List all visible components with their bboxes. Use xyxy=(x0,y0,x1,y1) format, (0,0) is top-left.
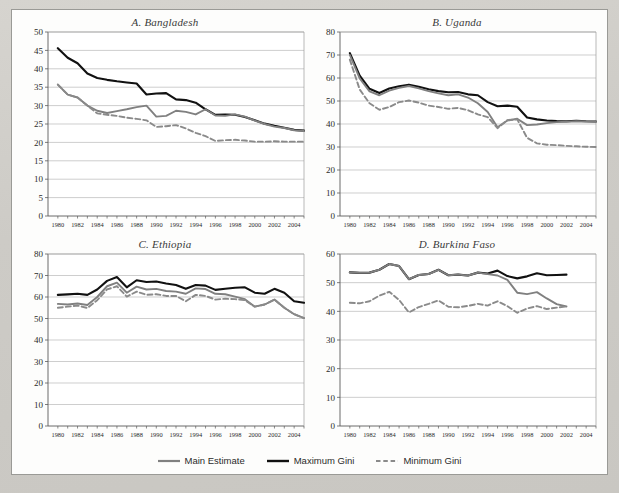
svg-text:0: 0 xyxy=(39,421,44,431)
svg-text:80: 80 xyxy=(34,249,44,259)
legend-label-minimum-gini: Minimum Gini xyxy=(403,455,461,466)
svg-text:20: 20 xyxy=(326,364,336,374)
panel-d-plot: 0102030405060198019821984198619881990199… xyxy=(312,238,602,448)
svg-text:2002: 2002 xyxy=(268,221,281,228)
svg-text:1988: 1988 xyxy=(130,221,143,228)
svg-text:1988: 1988 xyxy=(130,431,143,438)
svg-text:1984: 1984 xyxy=(383,431,397,438)
svg-text:50: 50 xyxy=(34,27,44,37)
svg-text:20: 20 xyxy=(34,378,44,388)
svg-text:20: 20 xyxy=(34,138,44,148)
svg-text:2004: 2004 xyxy=(288,431,302,438)
svg-text:1982: 1982 xyxy=(363,431,376,438)
svg-text:1992: 1992 xyxy=(462,221,475,228)
svg-text:10: 10 xyxy=(326,393,336,403)
svg-text:1992: 1992 xyxy=(170,221,183,228)
svg-text:2004: 2004 xyxy=(288,221,302,228)
svg-text:0: 0 xyxy=(39,211,44,221)
svg-text:1990: 1990 xyxy=(150,221,163,228)
svg-text:2004: 2004 xyxy=(580,221,594,228)
svg-text:35: 35 xyxy=(34,82,44,92)
svg-text:1990: 1990 xyxy=(442,431,455,438)
chart-legend: Main Estimate Maximum Gini Minimum Gini xyxy=(12,455,607,466)
panel-a-plot: 0510152025303540455019801982198419861988… xyxy=(20,16,310,238)
svg-text:1986: 1986 xyxy=(111,221,124,228)
svg-text:1996: 1996 xyxy=(501,221,514,228)
panel-a-bangladesh: A. Bangladesh 05101520253035404550198019… xyxy=(20,16,310,238)
svg-text:50: 50 xyxy=(34,314,44,324)
panel-c-ethiopia: C. Ethiopia 0102030405060708019801982198… xyxy=(20,238,310,448)
svg-text:80: 80 xyxy=(326,27,336,37)
svg-text:60: 60 xyxy=(326,249,336,259)
svg-text:1994: 1994 xyxy=(481,221,495,228)
svg-text:1986: 1986 xyxy=(403,431,416,438)
svg-text:2004: 2004 xyxy=(580,431,594,438)
svg-text:40: 40 xyxy=(326,307,336,317)
svg-text:25: 25 xyxy=(34,119,44,129)
svg-text:50: 50 xyxy=(326,96,336,106)
svg-text:1996: 1996 xyxy=(501,431,514,438)
svg-text:1996: 1996 xyxy=(209,431,222,438)
svg-text:40: 40 xyxy=(326,119,336,129)
svg-text:1994: 1994 xyxy=(189,431,203,438)
svg-text:2002: 2002 xyxy=(560,431,573,438)
svg-text:1982: 1982 xyxy=(363,221,376,228)
svg-text:0: 0 xyxy=(331,421,336,431)
svg-text:1994: 1994 xyxy=(481,431,495,438)
svg-text:1980: 1980 xyxy=(51,431,64,438)
svg-text:10: 10 xyxy=(326,188,336,198)
svg-text:1990: 1990 xyxy=(150,431,163,438)
legend-item-minimum-gini: Minimum Gini xyxy=(376,455,461,466)
svg-text:20: 20 xyxy=(326,165,336,175)
svg-text:1998: 1998 xyxy=(521,221,534,228)
figure-frame: A. Bangladesh 05101520253035404550198019… xyxy=(11,9,608,475)
panel-b-plot: 0102030405060708019801982198419861988199… xyxy=(312,16,602,238)
svg-text:1982: 1982 xyxy=(71,221,84,228)
svg-text:1986: 1986 xyxy=(111,431,124,438)
legend-label-main-estimate: Main Estimate xyxy=(185,455,245,466)
svg-text:1996: 1996 xyxy=(209,221,222,228)
svg-text:70: 70 xyxy=(34,271,44,281)
svg-text:1992: 1992 xyxy=(462,431,475,438)
svg-text:45: 45 xyxy=(34,46,44,56)
svg-text:1980: 1980 xyxy=(343,221,356,228)
legend-label-maximum-gini: Maximum Gini xyxy=(294,455,355,466)
svg-text:60: 60 xyxy=(326,73,336,83)
svg-text:15: 15 xyxy=(34,156,44,166)
svg-text:2002: 2002 xyxy=(268,431,281,438)
legend-item-main-estimate: Main Estimate xyxy=(158,455,245,466)
svg-text:2000: 2000 xyxy=(540,431,553,438)
svg-text:1986: 1986 xyxy=(403,221,416,228)
svg-text:30: 30 xyxy=(34,101,44,111)
svg-text:1998: 1998 xyxy=(229,431,242,438)
legend-item-maximum-gini: Maximum Gini xyxy=(267,455,355,466)
svg-text:70: 70 xyxy=(326,50,336,60)
svg-text:40: 40 xyxy=(34,335,44,345)
svg-text:10: 10 xyxy=(34,174,44,184)
svg-text:1988: 1988 xyxy=(422,221,435,228)
svg-text:1984: 1984 xyxy=(383,221,397,228)
svg-text:60: 60 xyxy=(34,292,44,302)
panel-c-plot: 0102030405060708019801982198419861988199… xyxy=(20,238,310,448)
svg-text:1980: 1980 xyxy=(51,221,64,228)
svg-text:1992: 1992 xyxy=(170,431,183,438)
svg-text:5: 5 xyxy=(39,193,44,203)
svg-text:0: 0 xyxy=(331,211,336,221)
legend-line-main-estimate xyxy=(158,456,180,466)
svg-text:1984: 1984 xyxy=(91,221,105,228)
svg-text:10: 10 xyxy=(34,400,44,410)
svg-text:2000: 2000 xyxy=(540,221,553,228)
svg-text:1988: 1988 xyxy=(422,431,435,438)
svg-text:50: 50 xyxy=(326,278,336,288)
svg-text:1984: 1984 xyxy=(91,431,105,438)
panel-b-uganda: B. Uganda 010203040506070801980198219841… xyxy=(312,16,602,238)
panel-d-burkina-faso: D. Burkina Faso 010203040506019801982198… xyxy=(312,238,602,448)
svg-text:30: 30 xyxy=(326,335,336,345)
svg-text:1980: 1980 xyxy=(343,431,356,438)
svg-text:1990: 1990 xyxy=(442,221,455,228)
legend-line-maximum-gini xyxy=(267,456,289,466)
svg-text:1998: 1998 xyxy=(229,221,242,228)
legend-line-minimum-gini xyxy=(376,456,398,466)
svg-text:2002: 2002 xyxy=(560,221,573,228)
svg-text:40: 40 xyxy=(34,64,44,74)
